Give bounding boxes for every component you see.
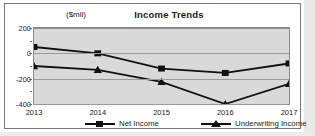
- data-point-marker: [286, 60, 289, 66]
- scan-edge-right: [304, 0, 315, 136]
- gridline: [34, 79, 289, 80]
- x-axis-tick-label: 2013: [26, 108, 43, 117]
- gridline: [34, 28, 289, 29]
- chart-legend: Net IncomeUnderwriting Income: [33, 119, 290, 130]
- y-axis-tick-mark: [29, 53, 32, 54]
- y-axis-tick-label: 200: [5, 24, 31, 33]
- y-axis-tick-mark: [29, 104, 32, 105]
- x-axis-tick-label: 2017: [281, 108, 298, 117]
- scan-edge-bottom: [0, 132, 315, 136]
- legend-item[interactable]: Net Income: [85, 119, 159, 128]
- y-axis-minor-tick: [30, 91, 32, 92]
- y-axis-tick-label: -200: [5, 74, 31, 83]
- plot-area: [33, 27, 290, 105]
- triangle-marker-icon: [201, 119, 231, 128]
- x-axis-tick-label: 2014: [89, 108, 106, 117]
- legend-label: Underwriting Income: [235, 119, 307, 128]
- gridline: [34, 53, 289, 54]
- square-marker-icon: [85, 119, 115, 128]
- gridline: [34, 104, 289, 105]
- y-axis-minor-tick: [30, 66, 32, 67]
- series-layer: [34, 28, 289, 104]
- legend-label: Net Income: [119, 119, 159, 128]
- legend-item[interactable]: Underwriting Income: [201, 119, 307, 128]
- x-axis-labels: 20132014201520162017: [33, 107, 290, 119]
- y-axis-labels: 2000-200-400: [4, 27, 31, 105]
- data-point-marker: [34, 44, 37, 50]
- data-point-marker: [158, 66, 165, 72]
- y-axis-tick-label: 0: [5, 49, 31, 58]
- y-axis-tick-mark: [29, 79, 32, 80]
- y-axis-tick-mark: [29, 28, 32, 29]
- y-axis-unit-label: ($mil): [66, 10, 86, 19]
- chart-title: Income Trends: [99, 9, 239, 20]
- data-point-marker: [285, 80, 289, 87]
- x-axis-tick-label: 2015: [153, 108, 170, 117]
- income-trends-chart: ($mil) Income Trends 2000-200-400 201320…: [4, 3, 301, 129]
- data-point-marker: [222, 70, 229, 76]
- y-axis-minor-tick: [30, 41, 32, 42]
- x-axis-tick-label: 2016: [217, 108, 234, 117]
- chart-page: ($mil) Income Trends 2000-200-400 201320…: [0, 0, 315, 136]
